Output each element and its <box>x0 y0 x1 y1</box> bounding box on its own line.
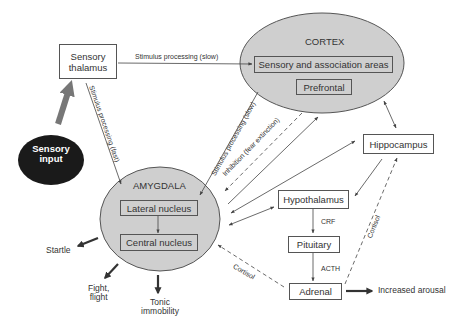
fight-flight-label: Fight, flight <box>88 284 109 303</box>
prefrontal-box: Prefrontal <box>296 79 352 95</box>
hypothalamus-box: Hypothalamus <box>278 190 349 209</box>
cortex-title: CORTEX <box>305 37 344 47</box>
sensory-input-text: Sensory input <box>32 143 70 164</box>
cortex-hippocampus-line <box>384 101 396 128</box>
hippocampus-to-hypothalamus-line <box>355 159 382 196</box>
crf-label: CRF <box>321 218 335 226</box>
increased-arousal-label: Increased arousal <box>378 286 446 295</box>
sensory-thalamus-box: Sensory thalamus <box>59 44 117 79</box>
sensory-thalamus-line1: Sensory <box>71 51 106 62</box>
startle-label: Startle <box>46 246 71 255</box>
tonic-immobility-label: Tonic immobility <box>138 298 182 317</box>
pituitary-box: Pituitary <box>288 236 340 253</box>
sensory-input-label: Sensory input <box>22 144 80 165</box>
hippocampus-box: Hippocampus <box>363 134 434 154</box>
amygdala-to-startle-arrow <box>78 238 98 246</box>
input-to-thalamus-arrow <box>58 86 70 124</box>
central-nucleus-box: Central nucleus <box>120 234 198 251</box>
tonic-line2: immobility <box>141 307 179 316</box>
thalamus-cortex-label: Stimulus processing (slow) <box>135 53 218 61</box>
amygdala-title: AMYGDALA <box>133 181 186 191</box>
adrenal-box: Adrenal <box>289 283 342 300</box>
amygdala-hypothalamus-line <box>229 207 274 225</box>
thalamus-to-cortex-line <box>118 63 252 64</box>
lateral-nucleus-box: Lateral nucleus <box>120 200 198 216</box>
sensory-thalamus-line2: thalamus <box>69 62 108 73</box>
acth-label: ACTH <box>321 265 340 273</box>
fight-flight-line2: flight <box>90 293 108 302</box>
amygdala-to-fight-arrow <box>105 264 118 278</box>
sensory-association-box: Sensory and association areas <box>254 56 393 73</box>
